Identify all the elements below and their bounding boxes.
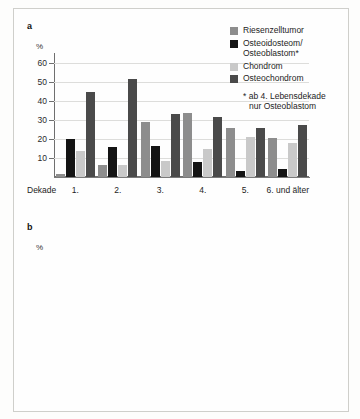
- bar: [108, 147, 117, 177]
- legend-label-osteoidosteom-line2: Osteoblastom*: [243, 48, 299, 58]
- bar: [193, 162, 202, 177]
- bar: [268, 138, 277, 177]
- figure-root: a % 102030405060 Dekade 1.2.3.4.5.6. und…: [0, 0, 360, 419]
- bar: [213, 117, 222, 177]
- swatch-osteochondrom-icon: [230, 75, 238, 83]
- panel-a-letter: a: [27, 21, 32, 31]
- chart-panel-b: b % Fibrosarkom Ewing-Sarkom Osteosarkom: [14, 210, 348, 411]
- panel-a-y-tick-label: 60: [38, 58, 47, 68]
- bar-group: [97, 53, 140, 177]
- panel-a-y-tick-label: 10: [38, 153, 47, 163]
- bar: [76, 151, 85, 177]
- panel-a-axis-strip: [54, 177, 310, 178]
- swatch-chondrom-icon: [230, 63, 238, 71]
- legend-label-osteochondrom: Osteochondrom: [243, 73, 303, 84]
- bar: [203, 149, 212, 177]
- x-axis-category-label: 4.: [199, 185, 206, 195]
- legend-item-osteochondrom: Osteochondrom: [230, 73, 350, 84]
- bar: [278, 169, 287, 177]
- panel-a-y-tick-label: 30: [38, 115, 47, 125]
- panel-a-legend: Riesenzelltumor Osteoidosteom/ Osteoblas…: [230, 25, 350, 112]
- panel-a-footnote-line2: nur Osteoblastom: [249, 101, 350, 112]
- bar: [86, 92, 95, 177]
- bar: [256, 128, 265, 177]
- x-axis-category-label: 6. und älter: [266, 185, 309, 195]
- bar: [171, 114, 180, 177]
- legend-label-riesenzelltumor: Riesenzelltumor: [243, 25, 304, 36]
- panel-a-y-tick-label: 20: [38, 134, 47, 144]
- bar: [246, 137, 255, 177]
- panel-a-percent-label: %: [36, 42, 43, 51]
- swatch-riesenzelltumor-icon: [230, 27, 238, 35]
- panel-a-y-tick-label: 40: [38, 96, 47, 106]
- x-axis-category-label: 5.: [242, 185, 249, 195]
- x-axis-category-label: 1.: [72, 185, 79, 195]
- bar: [118, 165, 127, 177]
- bar: [183, 113, 192, 177]
- bar: [141, 122, 150, 177]
- swatch-osteoidosteom-icon: [230, 40, 238, 48]
- panel-b-percent-label: %: [36, 243, 43, 252]
- panel-a-footnote: * ab 4. Lebensdekade nur Osteoblastom: [243, 91, 350, 112]
- bar-group: [139, 53, 182, 177]
- bar: [161, 161, 170, 177]
- panel-a-footnote-line1: * ab 4. Lebensdekade: [243, 91, 350, 102]
- bar: [151, 146, 160, 177]
- bar: [288, 143, 297, 177]
- bar: [66, 139, 75, 177]
- panel-a-axis-lead-label: Dekade: [27, 185, 56, 195]
- figure-frame: a % 102030405060 Dekade 1.2.3.4.5.6. und…: [13, 8, 349, 412]
- bar-group: [182, 53, 225, 177]
- legend-item-osteoidosteom: Osteoidosteom/ Osteoblastom*: [230, 38, 350, 59]
- bar-group: [54, 53, 97, 177]
- bar: [128, 79, 137, 177]
- x-axis-category-label: 3.: [157, 185, 164, 195]
- panel-a-y-tick-label: 50: [38, 77, 47, 87]
- legend-label-osteoidosteom-line1: Osteoidosteom/: [243, 38, 303, 48]
- x-axis-category-label: 2.: [114, 185, 121, 195]
- chart-panel-a: a % 102030405060 Dekade 1.2.3.4.5.6. und…: [14, 9, 348, 210]
- panel-a-x-labels: Dekade 1.2.3.4.5.6. und älter: [27, 185, 337, 199]
- legend-label-chondrom: Chondrom: [243, 61, 283, 72]
- bar: [226, 128, 235, 177]
- panel-b-letter: b: [27, 222, 33, 232]
- bar: [298, 125, 307, 177]
- bar: [98, 165, 107, 177]
- legend-item-riesenzelltumor: Riesenzelltumor: [230, 25, 350, 36]
- legend-item-chondrom: Chondrom: [230, 61, 350, 72]
